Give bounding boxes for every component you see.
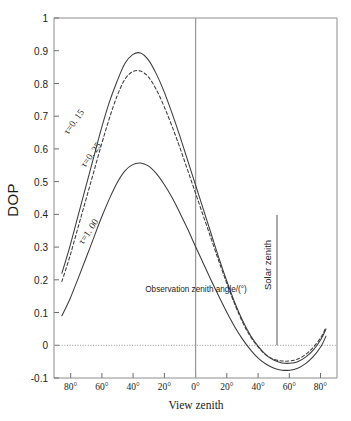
curve-tau-0-15 (62, 53, 326, 364)
x-tick-label: 80° (314, 382, 328, 392)
y-tick-label: 0.2 (34, 275, 48, 286)
x-tick-label: 60° (283, 382, 297, 392)
y-tick-label: 0.5 (34, 177, 48, 188)
y-tick-label: 1 (42, 13, 48, 24)
x-tick-label: 0° (191, 382, 200, 392)
y-tick-label: 0.8 (34, 79, 48, 90)
solar-zenith-label: Solar zenith (262, 240, 273, 290)
curve-tau-1-00 (62, 163, 326, 370)
x-tick-label: 40° (126, 382, 140, 392)
y-tick-label: 0.1 (34, 308, 48, 319)
y-tick-label: -0.1 (31, 373, 49, 384)
y-tick-label: 0.7 (34, 111, 48, 122)
x-tick-label: 20° (220, 382, 234, 392)
y-axis-title: DOP (4, 183, 21, 216)
chart-figure: 1 0.9 0.8 0.7 0.6 0.5 0.4 0.3 0.2 0.1 0 … (0, 0, 351, 421)
curve-label-tau-0-15: τ=0. 15 (62, 107, 87, 136)
observation-zenith-angle-label: Observation zenith angle/(°) (145, 285, 247, 294)
x-tick-label: 60° (95, 382, 109, 392)
y-tick-labels: 1 0.9 0.8 0.7 0.6 0.5 0.4 0.3 0.2 0.1 0 … (31, 13, 49, 384)
data-series-group (62, 53, 326, 371)
curve-tau-0-25 (62, 70, 326, 361)
x-tick-label: 40° (251, 382, 265, 392)
y-tick-label: 0.4 (34, 209, 48, 220)
y-tick-label: 0 (42, 340, 48, 351)
y-tick-marks (54, 18, 59, 378)
curve-label-tau-0-25: τ=0. 25 (79, 140, 104, 169)
curve-labels-group: τ=0. 15 τ=0. 25 τ=1. 00 (62, 107, 104, 246)
y-tick-label: 0.6 (34, 144, 48, 155)
y-tick-label: 0.9 (34, 46, 48, 57)
x-tick-labels: 80° 60° 40° 20° 0° 20° 40° 60° 80° (64, 382, 327, 392)
x-axis-title: View zenith (168, 399, 223, 411)
x-tick-label: 80° (64, 382, 78, 392)
y-tick-label: 0.3 (34, 242, 48, 253)
x-tick-label: 20° (158, 382, 172, 392)
chart-plot-area: 1 0.9 0.8 0.7 0.6 0.5 0.4 0.3 0.2 0.1 0 … (0, 0, 351, 421)
